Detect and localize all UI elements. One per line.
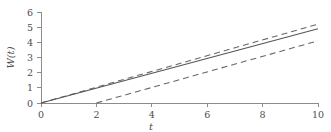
x-tick-label-2: 4 bbox=[149, 109, 155, 120]
line-chart: 0 1 2 3 4 5 6 0 2 4 6 8 10 t W(t) bbox=[0, 0, 331, 132]
y-tick-label-4: 4 bbox=[27, 37, 33, 48]
y-tick-label-6: 6 bbox=[27, 7, 33, 18]
chart-background bbox=[0, 0, 331, 132]
y-tick-label-3: 3 bbox=[27, 52, 33, 63]
y-tick-label-5: 5 bbox=[27, 22, 33, 33]
y-tick-label-2: 2 bbox=[27, 67, 33, 78]
chart-figure: 0 1 2 3 4 5 6 0 2 4 6 8 10 t W(t) bbox=[0, 0, 331, 132]
x-tick-label-5: 10 bbox=[312, 109, 324, 120]
y-tick-label-0: 0 bbox=[27, 98, 33, 109]
x-tick-label-3: 6 bbox=[204, 109, 210, 120]
y-tick-label-1: 1 bbox=[27, 82, 33, 93]
y-axis-title: W(t) bbox=[5, 46, 16, 68]
x-tick-label-0: 0 bbox=[38, 109, 44, 120]
x-tick-label-1: 2 bbox=[93, 109, 99, 120]
x-tick-label-4: 8 bbox=[260, 109, 266, 120]
